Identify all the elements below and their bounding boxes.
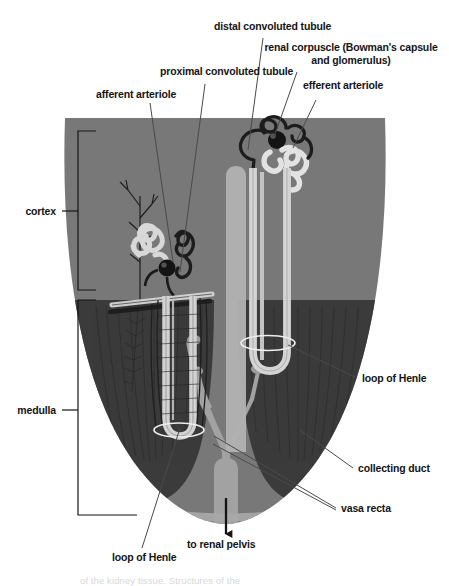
label-efferent-arteriole: proximal convoluted tubule bbox=[160, 65, 293, 78]
label-vasa-recta: vasa recta bbox=[341, 502, 391, 515]
nephron-diagram: afferent arteriole proximal convoluted t… bbox=[0, 0, 449, 586]
label-proximal-convoluted-tubule: efferent arteriole bbox=[303, 79, 383, 92]
label-distal-convoluted-tubule: distal convoluted tubule bbox=[214, 20, 331, 33]
label-loop-of-henle-left: loop of Henle bbox=[112, 551, 177, 564]
label-renal-corpuscle-line1: renal corpuscle (Bowman's capsule bbox=[264, 41, 437, 53]
label-medulla: medulla bbox=[0, 404, 56, 417]
label-cortex: cortex bbox=[0, 205, 56, 218]
label-to-renal-pelvis: to renal pelvis bbox=[187, 538, 255, 551]
label-collecting-duct: collecting duct bbox=[358, 462, 430, 475]
figure-caption: of the kidney tissue. Structures of the bbox=[80, 575, 240, 586]
glomerulus-left bbox=[159, 260, 176, 277]
label-renal-corpuscle: renal corpuscle (Bowman's capsule and gl… bbox=[258, 41, 444, 66]
glomerulus-left-highlight bbox=[161, 262, 166, 267]
label-renal-corpuscle-line2: and glomerulus) bbox=[311, 54, 390, 66]
pelvis-stalk bbox=[226, 166, 246, 452]
label-afferent-arteriole: afferent arteriole bbox=[96, 88, 176, 101]
label-loop-of-henle-right: loop of Henle bbox=[362, 372, 427, 385]
